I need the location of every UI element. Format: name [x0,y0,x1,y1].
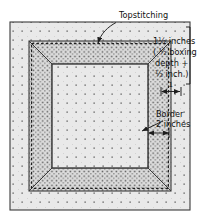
border-label-line-1: Border [156,109,184,119]
boxing-depth-line-1: 1½ inches [153,36,195,46]
seam-dimension-label: 1 [169,81,173,89]
topstitching-label: Topstitching [118,10,168,20]
boxing-depth-line-3: depth + [155,58,188,68]
boxing-depth-line-2: ( ½ boxing [153,47,197,57]
cushion-center-field [52,64,148,168]
boxing-depth-line-4: ½ inch ) [155,69,189,79]
sewing-pattern-diagram: Topstitching 1½ inches ( ½ boxing depth … [0,0,214,223]
border-label-line-2: 2 inches [156,119,190,129]
